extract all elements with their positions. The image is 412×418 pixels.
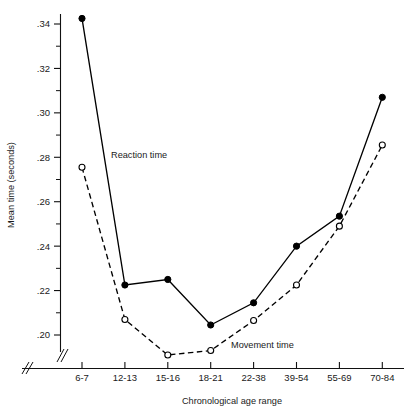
x-tick-label: 12-13	[113, 372, 137, 383]
chart-container: .34.32.30.28.26.24.22.20 6-712-1315-1618…	[0, 0, 412, 418]
x-tick-label: 70-84	[370, 372, 394, 383]
y-axis-minor-ticks	[56, 46, 61, 313]
data-point-0-7	[379, 94, 385, 100]
data-point-0-3	[208, 322, 214, 328]
y-tick-label: .30	[37, 107, 50, 118]
data-point-0-5	[293, 243, 299, 249]
x-tick-label: 6-7	[75, 372, 89, 383]
x-axis-tick-labels: 6-712-1315-1618-2122-3839-5455-6970-84	[75, 372, 394, 383]
data-point-0-6	[336, 213, 342, 219]
chart-axes	[22, 14, 404, 369]
data-point-0-4	[251, 300, 257, 306]
data-series-layer	[79, 15, 386, 358]
axis-break-icon	[22, 349, 68, 374]
line-chart: .34.32.30.28.26.24.22.20 6-712-1315-1618…	[0, 0, 412, 418]
data-point-1-0	[79, 164, 85, 170]
y-tick-label: .22	[37, 285, 50, 296]
series-label-movement-time: Movement time	[231, 340, 294, 350]
data-point-1-5	[294, 282, 300, 288]
data-point-1-4	[251, 318, 257, 324]
x-tick-label: 55-69	[327, 372, 351, 383]
y-tick-label: .24	[37, 241, 50, 252]
x-axis-ticks	[82, 362, 382, 369]
data-point-1-1	[122, 316, 128, 322]
x-tick-label: 15-16	[156, 372, 180, 383]
x-tick-label: 18-21	[199, 372, 223, 383]
y-tick-label: .32	[37, 63, 50, 74]
y-tick-label: .34	[37, 18, 50, 29]
y-axis-tick-labels: .34.32.30.28.26.24.22.20	[37, 18, 50, 340]
x-tick-label: 22-38	[241, 372, 265, 383]
series-label-reaction-time: Reaction time	[111, 150, 167, 160]
y-tick-label: .26	[37, 196, 50, 207]
data-point-1-2	[165, 352, 171, 358]
data-point-0-2	[165, 276, 171, 282]
y-axis-title: Mean time (seconds)	[6, 142, 16, 228]
data-point-0-0	[79, 15, 85, 21]
x-axis-title: Chronological age range	[182, 396, 282, 406]
y-tick-label: .28	[37, 152, 50, 163]
series-line-0	[82, 18, 382, 325]
data-point-1-3	[208, 348, 214, 354]
series-line-1	[82, 145, 382, 355]
x-tick-label: 39-54	[284, 372, 308, 383]
y-tick-label: .20	[37, 329, 50, 340]
data-point-1-6	[336, 223, 342, 229]
data-point-0-1	[122, 282, 128, 288]
data-point-1-7	[379, 142, 385, 148]
